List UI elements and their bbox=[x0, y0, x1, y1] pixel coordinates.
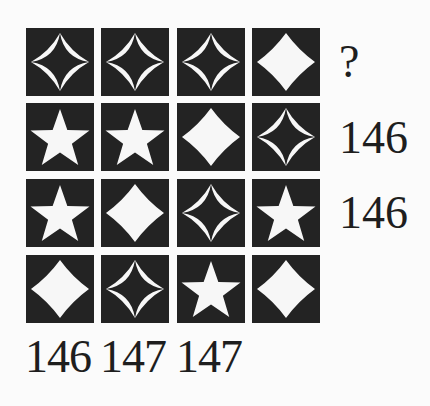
tile-r2-c2 bbox=[101, 103, 169, 171]
tile-r2-c1 bbox=[26, 103, 94, 171]
five-point-star-icon bbox=[26, 179, 94, 247]
solid-four-point-star-icon bbox=[252, 28, 320, 96]
outline-four-point-star-icon bbox=[26, 28, 94, 96]
tile-r1-c4 bbox=[252, 28, 320, 96]
outline-four-point-star-icon bbox=[252, 103, 320, 171]
solid-four-point-star-icon bbox=[177, 103, 245, 171]
tile-r2-c3 bbox=[177, 103, 245, 171]
outline-four-point-star-icon bbox=[101, 28, 169, 96]
outline-four-point-star-icon bbox=[101, 255, 169, 323]
tile-r3-c1 bbox=[26, 179, 94, 247]
row-label-1: ? bbox=[339, 39, 359, 85]
col-label-3: 147 bbox=[176, 334, 242, 380]
tile-r4-c1 bbox=[26, 255, 94, 323]
five-point-star-icon bbox=[177, 255, 245, 323]
outline-four-point-star-icon bbox=[177, 179, 245, 247]
tile-r4-c4 bbox=[252, 255, 320, 323]
tile-r3-c3 bbox=[177, 179, 245, 247]
tile-r1-c2 bbox=[101, 28, 169, 96]
tile-r1-c3 bbox=[177, 28, 245, 96]
solid-four-point-star-icon bbox=[101, 179, 169, 247]
tile-r4-c2 bbox=[101, 255, 169, 323]
five-point-star-icon bbox=[252, 179, 320, 247]
solid-four-point-star-icon bbox=[26, 255, 94, 323]
five-point-star-icon bbox=[101, 103, 169, 171]
tile-r2-c4 bbox=[252, 103, 320, 171]
five-point-star-icon bbox=[26, 103, 94, 171]
tile-r3-c2 bbox=[101, 179, 169, 247]
tile-r4-c3 bbox=[177, 255, 245, 323]
tile-r1-c1 bbox=[26, 28, 94, 96]
row-label-3: 146 bbox=[339, 190, 408, 236]
row-label-2: 146 bbox=[339, 115, 408, 161]
col-label-1: 146 bbox=[25, 334, 91, 380]
solid-four-point-star-icon bbox=[252, 255, 320, 323]
col-label-2: 147 bbox=[100, 334, 166, 380]
outline-four-point-star-icon bbox=[177, 28, 245, 96]
tile-r3-c4 bbox=[252, 179, 320, 247]
